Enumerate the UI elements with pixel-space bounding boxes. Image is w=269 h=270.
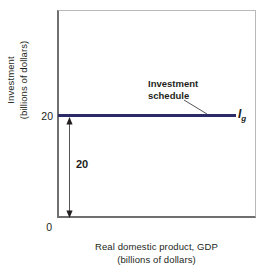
- gap-measure-label: 20: [76, 158, 88, 170]
- curve-label-subscript: g: [241, 114, 246, 123]
- y-axis-title: Investment (billions of dollars): [5, 12, 39, 148]
- x-axis-title: Real domestic product, GDP (billions of …: [57, 240, 256, 266]
- investment-schedule-callout: Investment schedule: [148, 78, 232, 102]
- callout-line-1: Investment: [148, 78, 232, 90]
- x-axis-title-line-1: Real domestic product, GDP: [57, 240, 256, 253]
- curve-label-ig: Ig: [238, 107, 246, 123]
- y-axis-title-line-2: (billions of dollars): [18, 12, 31, 148]
- axis-origin-label: 0: [38, 221, 52, 233]
- investment-schedule-line: [58, 114, 236, 117]
- x-axis-title-line-2: (billions of dollars): [57, 253, 256, 266]
- callout-line-2: schedule: [148, 90, 232, 102]
- y-axis-title-line-1: Investment: [5, 12, 18, 148]
- investment-schedule-figure: Ig Investment schedule 20 20 0 Investmen…: [0, 0, 269, 270]
